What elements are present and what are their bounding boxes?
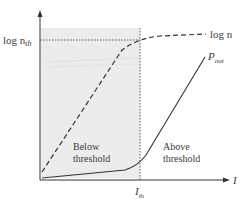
- y-tick-label: log nth: [3, 34, 32, 48]
- x-axis-label: I: [232, 174, 238, 186]
- log-n-label: log n: [210, 28, 233, 40]
- above-threshold-label-2: threshold: [163, 153, 200, 164]
- below-threshold-label-1: Below: [73, 141, 100, 152]
- y-axis-arrow-icon: [38, 10, 43, 17]
- below-threshold-label-2: threshold: [73, 153, 110, 164]
- above-threshold-label-1: Above: [163, 141, 190, 152]
- threshold-diagram: log nth log n Pout Below threshold Above…: [0, 0, 247, 206]
- p-out-label: Pout: [207, 50, 225, 65]
- x-axis-arrow-icon: [223, 178, 230, 183]
- x-tick-label: Ith: [134, 185, 145, 200]
